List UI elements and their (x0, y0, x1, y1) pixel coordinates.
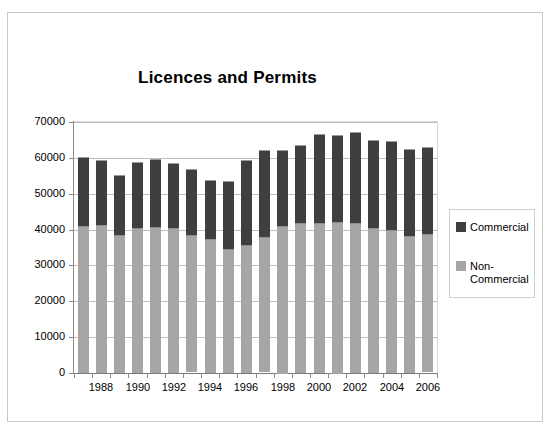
bar-column (241, 160, 252, 373)
x-tick (292, 373, 293, 378)
y-axis-tick-label: 70000 (3, 116, 65, 127)
chart-legend: Commercial Non-Commercial (449, 209, 535, 298)
bar-column (295, 145, 306, 373)
bar-segment-commercial (150, 159, 161, 227)
y-axis-tick-label: 0 (3, 367, 65, 378)
legend-label-non-commercial-line1: Non- (470, 260, 494, 272)
bar-column (96, 160, 107, 373)
bar-segment-non-commercial (277, 226, 288, 374)
x-tick (256, 373, 257, 378)
x-axis-tick-label: 1988 (81, 381, 121, 393)
x-axis-tick-label: 2006 (408, 381, 448, 393)
legend-item-commercial: Commercial (456, 221, 529, 234)
x-axis-tick-label: 1998 (263, 381, 303, 393)
bar-column (78, 157, 89, 373)
bar-segment-commercial (78, 157, 89, 226)
x-tick (328, 373, 329, 378)
bar-segment-non-commercial (295, 223, 306, 373)
bar-column (114, 175, 125, 373)
x-tick (401, 373, 402, 378)
bar-column (277, 150, 288, 373)
bar-segment-commercial (422, 147, 433, 234)
bar-segment-non-commercial (96, 225, 107, 373)
bar-segment-non-commercial (223, 249, 234, 373)
bar-segment-non-commercial (386, 230, 397, 373)
y-tick (69, 301, 73, 302)
bar-segment-non-commercial (78, 226, 89, 373)
x-tick (92, 373, 93, 378)
x-tick (364, 373, 365, 378)
x-tick (346, 373, 347, 378)
bar-column (132, 162, 143, 373)
bar-segment-non-commercial (332, 222, 343, 374)
x-axis-tick-label: 1990 (118, 381, 158, 393)
bar-column (404, 149, 415, 373)
bar-segment-commercial (132, 162, 143, 228)
chart-page: Licences and Permits 7000060000500004000… (0, 0, 551, 431)
bar-column (314, 134, 325, 373)
y-axis-tick-label: 30000 (3, 259, 65, 270)
bar-column (368, 140, 379, 373)
plot-right-border (437, 121, 438, 374)
y-axis-tick-label: 40000 (3, 224, 65, 235)
bar-column (168, 163, 179, 373)
y-axis-tick-label: 20000 (3, 295, 65, 306)
legend-swatch-commercial (456, 222, 466, 232)
y-axis-tick-label: 10000 (3, 331, 65, 342)
x-tick (237, 373, 238, 378)
bar-column (259, 150, 270, 373)
x-tick (310, 373, 311, 378)
chart-title: Licences and Permits (0, 68, 455, 88)
bar-segment-non-commercial (114, 235, 125, 373)
x-tick (383, 373, 384, 378)
bar-segment-commercial (96, 160, 107, 225)
bar-segment-commercial (259, 150, 270, 237)
bar-column (332, 135, 343, 373)
x-tick (74, 373, 75, 378)
x-tick (201, 373, 202, 378)
legend-item-non-commercial: Non-Commercial (456, 260, 529, 286)
bar-segment-non-commercial (168, 228, 179, 373)
bar-column (422, 147, 433, 373)
legend-swatch-non-commercial (456, 261, 466, 271)
bar-segment-non-commercial (350, 223, 361, 373)
bar-segment-commercial (350, 132, 361, 223)
bar-segment-commercial (223, 181, 234, 249)
x-axis-tick-label: 1994 (190, 381, 230, 393)
bar-column (150, 159, 161, 373)
x-tick (165, 373, 166, 378)
x-axis-tick-label: 2002 (335, 381, 375, 393)
y-tick (69, 265, 73, 266)
bar-segment-commercial (332, 135, 343, 222)
bar-segment-commercial (404, 149, 415, 236)
bar-segment-non-commercial (259, 237, 270, 372)
x-tick (219, 373, 220, 378)
y-tick (69, 230, 73, 231)
x-axis-tick-label: 2004 (372, 381, 412, 393)
bar-column (205, 180, 216, 373)
bar-segment-commercial (368, 140, 379, 228)
x-tick (110, 373, 111, 378)
y-tick (69, 373, 73, 374)
bar-segment-non-commercial (205, 239, 216, 373)
bar-segment-commercial (277, 150, 288, 226)
bar-column (386, 141, 397, 373)
bar-segment-non-commercial (368, 228, 379, 373)
x-axis-tick-label: 2000 (299, 381, 339, 393)
legend-label-non-commercial-line2: Commercial (470, 273, 529, 285)
bar-segment-non-commercial (422, 234, 433, 372)
bar-segment-commercial (205, 180, 216, 239)
x-axis-tick-label: 1992 (154, 381, 194, 393)
bar-segment-non-commercial (314, 223, 325, 373)
x-tick (437, 373, 438, 378)
bar-segment-commercial (386, 141, 397, 230)
bar-segment-commercial (314, 134, 325, 223)
x-tick (147, 373, 148, 378)
y-tick (69, 337, 73, 338)
y-tick (69, 122, 73, 123)
plot-area (74, 122, 437, 373)
x-axis-tick-label: 1996 (226, 381, 266, 393)
bar-column (350, 132, 361, 373)
bar-segment-non-commercial (404, 236, 415, 373)
y-axis-tick-label: 60000 (3, 152, 65, 163)
